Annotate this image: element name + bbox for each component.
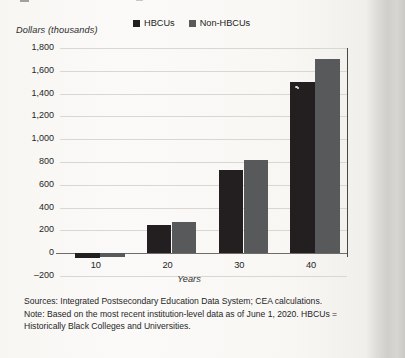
gridline [60, 71, 347, 72]
plot-area [60, 48, 347, 276]
y-axis-tick-label: 600 [8, 179, 54, 189]
notes-line-note: Note: Based on the most recent instituti… [24, 308, 364, 321]
y-axis-tick-label: 200 [8, 224, 54, 234]
bar-hbcus-20 [147, 225, 172, 254]
bar-hbcus-30 [219, 170, 244, 253]
notes-line-sources: Sources: Integrated Postsecondary Educat… [24, 295, 364, 308]
x-axis-tick-label: 20 [138, 260, 198, 270]
x-axis-title: Years [0, 274, 378, 284]
legend-swatch-hbcus [133, 20, 140, 27]
bar-hbcus-10 [75, 253, 100, 258]
bar-non-hbcus-40 [315, 59, 340, 253]
y-axis-tick-label: 1,200 [8, 110, 54, 120]
y-axis-title: Dollars (thousands) [16, 25, 98, 35]
y-axis-tick-label: 1,800 [8, 42, 54, 52]
bar-non-hbcus-10 [100, 253, 125, 256]
figure-notes: Sources: Integrated Postsecondary Educat… [24, 295, 364, 333]
legend-swatch-non-hbcus [189, 20, 196, 27]
page-edge-strip [378, 0, 405, 358]
notes-line-note-cont: Historically Black Colleges and Universi… [24, 320, 364, 333]
bar-non-hbcus-20 [172, 222, 197, 253]
page-gutter-shadow [366, 0, 378, 358]
bar-hbcus-40 [290, 82, 315, 253]
scanned-page: Dollars (thousands) HBCUs Non-HBCUs 1,80… [0, 0, 405, 358]
bar-non-hbcus-30 [244, 160, 269, 253]
y-axis-tick-label: 0 [8, 247, 54, 257]
chart-legend: HBCUs Non-HBCUs [133, 18, 250, 28]
legend-item-non-hbcus: Non-HBCUs [189, 18, 251, 28]
x-axis-tick-label: 10 [66, 260, 126, 270]
x-axis-tick-label: 40 [281, 260, 341, 270]
gridline [60, 48, 347, 49]
legend-label-non-hbcus: Non-HBCUs [200, 18, 251, 28]
y-axis-tick-label: 1,600 [8, 65, 54, 75]
legend-item-hbcus: HBCUs [133, 18, 175, 28]
y-axis-tick-label: 800 [8, 156, 54, 166]
x-axis-tick-label: 30 [209, 260, 269, 270]
y-axis-tick-label: 1,400 [8, 88, 54, 98]
y-axis-tick-label: 400 [8, 202, 54, 212]
right-axis-spine [347, 48, 348, 257]
legend-label-hbcus: HBCUs [144, 18, 175, 28]
y-axis-tick-label: 1,000 [8, 133, 54, 143]
